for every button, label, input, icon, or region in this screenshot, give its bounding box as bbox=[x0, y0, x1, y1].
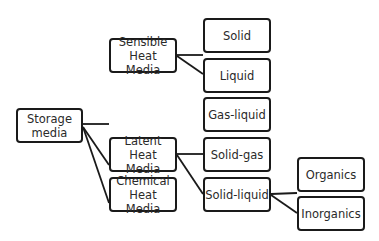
edge-storage-latent bbox=[83, 127, 109, 165]
node-label: Solid bbox=[223, 29, 251, 43]
node-label: Latent Heat Media bbox=[111, 134, 175, 176]
edge-sensible-liquid bbox=[177, 56, 203, 74]
node-label: Storage media bbox=[18, 112, 81, 140]
node-organics: Organics bbox=[297, 157, 365, 192]
node-label: Chemical Heat Media bbox=[111, 174, 175, 216]
edge-latent-solidliquid bbox=[177, 155, 203, 194]
node-label: Sensible Heat Media bbox=[111, 35, 175, 77]
node-storage-media: Storage media bbox=[16, 108, 83, 143]
edge-solidliquid-inorganics bbox=[271, 195, 297, 213]
node-gas-liquid: Gas-liquid bbox=[203, 97, 271, 132]
node-chemical-heat-media: Chemical Heat Media bbox=[109, 177, 177, 212]
edge-storage-chemical bbox=[83, 127, 109, 203]
node-solid-liquid: Solid-liquid bbox=[203, 177, 271, 212]
node-label: Gas-liquid bbox=[208, 108, 266, 122]
node-solid: Solid bbox=[203, 18, 271, 53]
node-label: Solid-liquid bbox=[205, 188, 269, 202]
node-label: Liquid bbox=[220, 69, 255, 83]
node-latent-heat-media: Latent Heat Media bbox=[109, 137, 177, 172]
node-label: Inorganics bbox=[301, 207, 360, 221]
node-label: Organics bbox=[306, 168, 357, 182]
node-label: Solid-gas bbox=[211, 148, 264, 162]
edge-solidliquid-organics bbox=[271, 193, 297, 194]
node-sensible-heat-media: Sensible Heat Media bbox=[109, 38, 177, 73]
node-liquid: Liquid bbox=[203, 58, 271, 93]
node-solid-gas: Solid-gas bbox=[203, 137, 271, 172]
node-inorganics: Inorganics bbox=[297, 196, 365, 231]
